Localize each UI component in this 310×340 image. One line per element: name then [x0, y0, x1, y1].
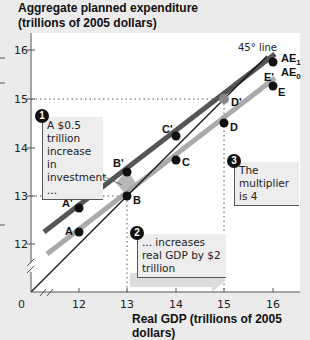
y-tick-12: 12: [14, 238, 28, 251]
label-c-prime: C': [162, 123, 173, 135]
label-c: C: [182, 156, 190, 168]
annotation-3-badge: 3: [227, 154, 241, 168]
annotation-3: The multiplier is 4: [234, 162, 299, 206]
x-tick-13: 13: [120, 298, 134, 311]
annotation-2-text: ... increases real GDP by $2 trillion: [142, 236, 221, 274]
point-e-prime: [269, 58, 278, 67]
annotation-3-text: The multiplier is 4: [239, 164, 289, 202]
x-tick-12: 12: [72, 298, 86, 311]
label-b: B: [133, 194, 141, 206]
label-b-prime: B': [113, 157, 124, 169]
point-b: [123, 192, 132, 201]
x-tick-14: 14: [169, 298, 183, 311]
label-e-prime: E': [264, 71, 274, 83]
y-tick-16: 16: [14, 44, 28, 57]
annotation-1-badge: 1: [35, 109, 49, 123]
x-ticks: [79, 288, 273, 292]
x-tick-0: 0: [18, 298, 25, 311]
y-tick-14: 14: [14, 142, 28, 155]
point-c-prime: [172, 132, 181, 141]
point-a-prime: [75, 204, 84, 213]
label-d: D: [230, 121, 238, 133]
y-tick-15: 15: [14, 93, 28, 106]
label-a: A: [65, 225, 73, 237]
label-d-prime: D': [231, 96, 242, 108]
annotation-1-text: A $0.5 trillion increase in investment .…: [47, 119, 106, 196]
x-tick-15: 15: [217, 298, 231, 311]
annotation-2: ... increases real GDP by $2 trillion: [137, 234, 226, 278]
y-tick-13: 13: [14, 190, 28, 203]
point-b-prime: [123, 168, 132, 177]
label-ae0: AE0: [281, 66, 301, 81]
y-axis-break: [27, 266, 34, 273]
annotation-2-badge: 2: [130, 226, 144, 240]
x-tick-16: 16: [266, 298, 280, 311]
point-d: [220, 119, 229, 128]
label-e: E: [278, 86, 285, 98]
label-45-line: 45° line: [238, 42, 277, 53]
point-c: [172, 156, 181, 165]
point-a: [75, 228, 84, 237]
x-axis-title: Real GDP (trillions of 2005 dollars): [132, 312, 310, 340]
label-ae1: AE1: [281, 52, 301, 67]
annotation-1: A $0.5 trillion increase in investment .…: [42, 117, 103, 200]
point-d-prime: [219, 94, 229, 104]
